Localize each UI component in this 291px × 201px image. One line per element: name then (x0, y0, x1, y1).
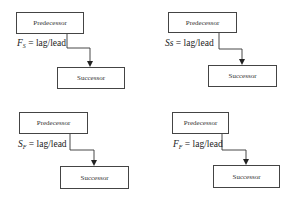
relationship-label-ff: FF = lag/lead (173, 139, 223, 152)
predecessor-label: Predecessor (184, 119, 217, 127)
predecessor-box: Predecessor (19, 112, 88, 134)
predecessor-box: Predecessor (168, 12, 237, 33)
relationship-label-fs: FS = lag/lead (17, 38, 66, 51)
rel-text: = lag/lead (182, 139, 222, 149)
relationship-label-ss: Ss = lag/lead (165, 38, 214, 48)
successor-label: Successor (77, 74, 105, 82)
predecessor-box: Predecessor (16, 12, 84, 34)
rel-text: = lag/lead (173, 38, 213, 48)
predecessor-label: Predecessor (33, 19, 66, 27)
successor-box: Successor (60, 166, 129, 189)
connector-ss (219, 32, 242, 59)
successor-box: Successor (208, 65, 277, 87)
successor-label: Successor (81, 174, 109, 182)
successor-label: Successor (233, 173, 261, 181)
successor-label: Successor (229, 72, 257, 80)
rel-text: = lag/lead (26, 38, 66, 48)
predecessor-label: Predecessor (186, 19, 219, 27)
relationship-label-sf: SF = lag/lead (18, 139, 67, 152)
successor-box: Successor (57, 67, 125, 89)
connector-sf (70, 133, 94, 160)
predecessor-box: Predecessor (172, 112, 229, 134)
successor-box: Successor (213, 165, 280, 188)
connector-ff (222, 133, 246, 159)
rel-text: = lag/lead (26, 139, 66, 149)
connector-fs (67, 33, 90, 61)
predecessor-label: Predecessor (37, 119, 70, 127)
